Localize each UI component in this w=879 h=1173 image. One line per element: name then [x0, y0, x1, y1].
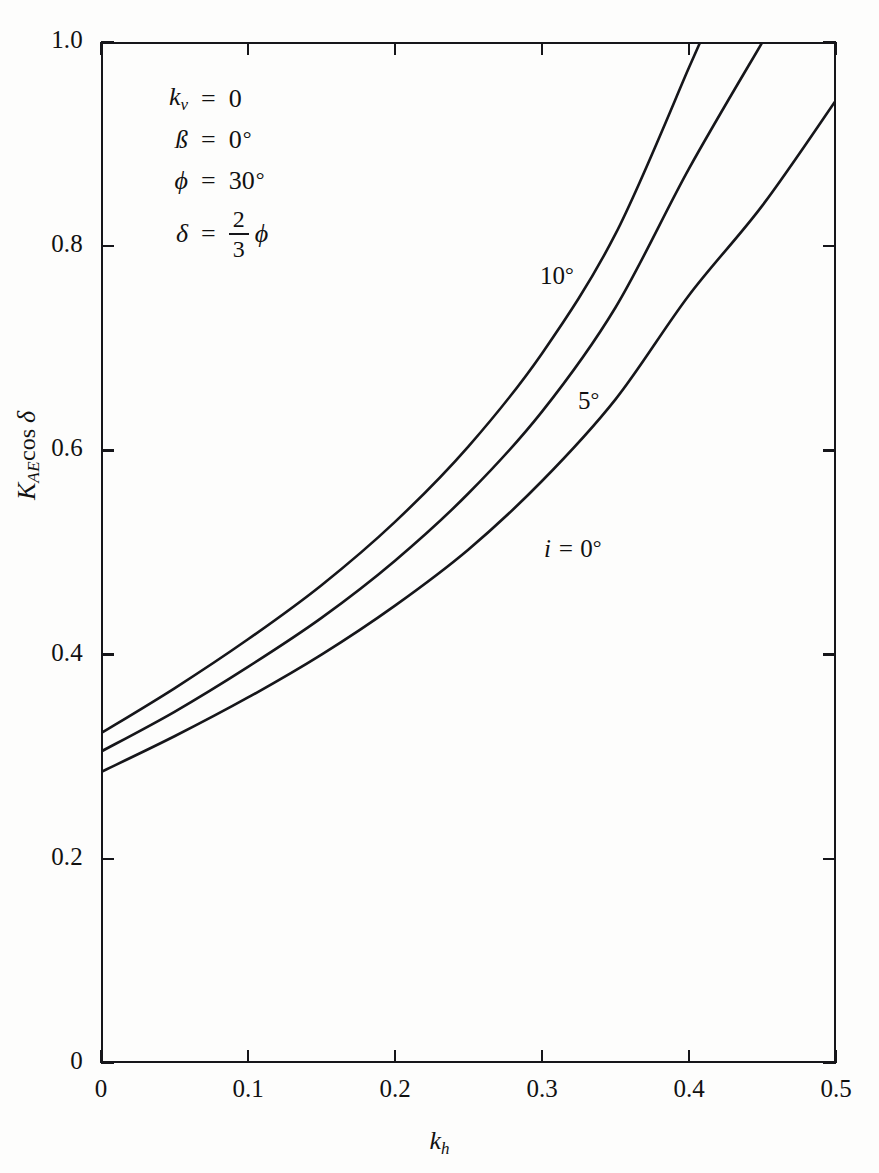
y-tick-label: 0.2: [0, 843, 83, 871]
parameter-value: 0: [229, 84, 242, 114]
parameter-equals: =: [188, 84, 229, 114]
x-tick-label: 0.1: [232, 1075, 263, 1103]
degree-symbol: °: [591, 387, 600, 412]
fraction-numerator: 2: [233, 207, 245, 232]
x-tick-label: 0.4: [673, 1075, 704, 1103]
parameter-row: kv=0: [148, 78, 268, 119]
degree-symbol: °: [242, 126, 252, 151]
curve-label-prefix: i =: [544, 535, 580, 562]
curve-label-value: 0: [580, 535, 593, 562]
x-axis-title: kh: [0, 1126, 879, 1159]
parameter-row: δ=23ϕ: [148, 205, 268, 263]
x-tick-label: 0.5: [820, 1075, 851, 1103]
curve-label-value: 5: [578, 387, 591, 414]
x-tick-label: 0: [95, 1075, 108, 1103]
y-axis-title-k: K: [12, 483, 41, 500]
parameter-equals: =: [188, 166, 229, 196]
parameter-symbol: kv: [148, 82, 188, 115]
y-axis-title-subscript: AE: [24, 461, 43, 483]
x-tick-label: 0.3: [526, 1075, 557, 1103]
parameter-equals: =: [188, 219, 229, 249]
x-tick-label: 0.2: [379, 1075, 410, 1103]
fraction-bar: [229, 233, 249, 235]
figure-canvas: 00.20.40.60.81.000.10.20.30.40.5 kv=0ß=0…: [0, 0, 879, 1173]
y-tick-label: 0.4: [0, 639, 83, 667]
degree-symbol: °: [255, 167, 265, 192]
curve-label: i = 0°: [544, 535, 602, 563]
parameter-symbol: ß: [148, 125, 188, 155]
degree-symbol: °: [565, 262, 574, 287]
fraction-denominator: 3: [233, 236, 245, 261]
curve-label: 5°: [578, 387, 599, 415]
parameter-trailing-symbol: ϕ: [255, 219, 268, 249]
curve-label: 10°: [540, 262, 574, 290]
parameter-value: 0°: [229, 125, 252, 155]
parameter-annotations: kv=0ß=0°ϕ=30°δ=23ϕ: [148, 78, 268, 263]
y-tick-label: 1.0: [0, 26, 83, 54]
x-axis-title-k: k: [429, 1126, 441, 1155]
parameter-row: ß=0°: [148, 119, 268, 160]
y-axis-title-cos: cos: [14, 423, 40, 461]
parameter-equals: =: [188, 125, 229, 155]
parameter-symbol: δ: [148, 219, 188, 249]
parameter-value: 30°: [229, 166, 265, 196]
x-axis-title-subscript: h: [441, 1139, 450, 1158]
parameter-symbol-subscript: v: [180, 95, 188, 114]
curve-label-value: 10: [540, 262, 565, 289]
degree-symbol: °: [593, 535, 602, 560]
y-tick-label: 0: [0, 1047, 83, 1075]
parameter-row: ϕ=30°: [148, 160, 268, 201]
parameter-fraction: 23: [229, 207, 249, 261]
parameter-symbol: ϕ: [148, 166, 188, 196]
y-tick-label: 0.8: [0, 230, 83, 258]
y-axis-title-delta: δ: [12, 411, 41, 423]
y-axis-title: KAEcos δ: [12, 411, 44, 500]
